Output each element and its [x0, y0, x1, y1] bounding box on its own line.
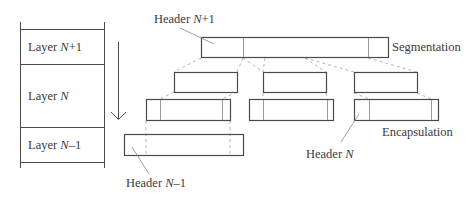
- pdu-layer-n-minus-1: [125, 135, 244, 156]
- layer-label-n-plus-1: Layer N+1: [28, 41, 82, 54]
- segments-row: [175, 73, 418, 93]
- pdu-layer-n-plus-1: [202, 38, 389, 58]
- layer-label-n: Layer N: [28, 90, 69, 103]
- segmentation-label: Segmentation: [392, 41, 461, 54]
- segment-3: [355, 73, 418, 93]
- header-n-label: Header N: [306, 148, 354, 161]
- diagram-canvas: [0, 0, 476, 197]
- header-n-minus-1-label: Header N–1: [126, 177, 186, 190]
- header-n-plus-1-label: Header N+1: [154, 13, 215, 26]
- segment-1: [175, 73, 238, 93]
- pdus-layer-n: [147, 100, 439, 121]
- encapsulation-label: Encapsulation: [382, 126, 453, 139]
- layer-label-n-minus-1: Layer N–1: [28, 139, 81, 152]
- segment-2: [264, 73, 327, 93]
- segmentation-guides: [174, 58, 417, 72]
- down-arrow-icon: [111, 42, 126, 120]
